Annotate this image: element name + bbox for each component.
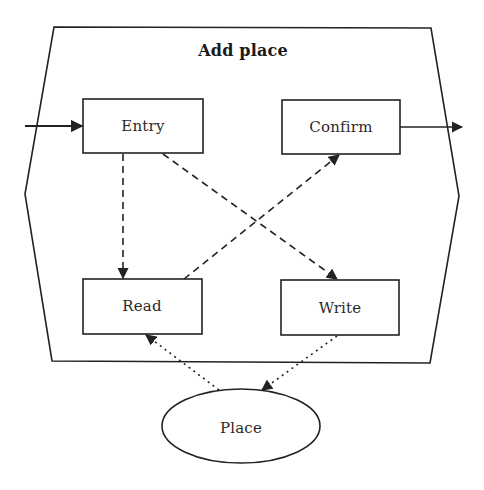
add-place-diagram: Add place Entry Confirm Read Write Place [0,0,484,490]
arrow-entry-to-write [163,154,337,279]
write-label: Write [319,299,362,317]
confirm-label: Confirm [309,118,372,136]
entry-label: Entry [121,117,164,135]
diagram-title: Add place [198,41,288,60]
read-label: Read [122,297,162,315]
place-label: Place [220,419,262,437]
diagram-canvas [0,0,484,490]
arrow-read-to-confirm [184,155,339,279]
